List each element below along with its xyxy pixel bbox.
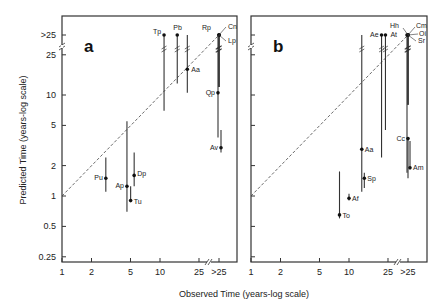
x-tick-label: 10 [344,267,354,277]
data-point [408,166,412,170]
point-label: Am [413,164,424,171]
label-leader [408,35,416,41]
label-leader [408,27,415,35]
x-tick-label: 25 [194,267,204,277]
data-point [186,67,190,71]
data-point [162,33,166,37]
panel-a: 0.250.51251025>251251025>25aPuApDpTuTpPb… [38,16,237,277]
x-tick-label: 2 [89,267,94,277]
point-label: Cm [416,22,427,29]
label-leader [403,28,408,35]
label-leader [219,27,226,35]
data-point [384,33,388,37]
point-label: Ap [115,182,124,190]
panel-letter: a [84,37,94,56]
point-label: Qp [206,89,215,97]
x-axis-title: Observed Time (years-log scale) [179,289,309,299]
x-tick-label: 5 [128,267,133,277]
x-tick-label: 10 [155,267,165,277]
point-label: Tp [153,28,161,36]
y-tick-label: 1 [51,191,56,201]
x-tick-label: 2 [278,267,283,277]
point-label: Cn [228,23,237,30]
point-label: Sp [367,175,376,183]
y-tick-label: 0.5 [43,221,56,231]
point-label: Av [210,144,219,151]
x-tick-label: >25 [400,267,415,277]
y-tick-label: 5 [51,120,56,130]
y-break-gap [250,45,252,48]
y-axis-title: Predicted Time (years-log scale) [18,75,28,204]
identity-line [251,35,408,196]
y-tick-label: 2 [51,161,56,171]
y-tick-label: 10 [46,90,56,100]
label-leader [219,35,226,41]
x-tick-label: 5 [317,267,322,277]
x-tick-label: 1 [248,267,253,277]
point-label: To [343,212,351,219]
data-point [129,199,133,203]
point-label: Dp [137,170,146,178]
y-tick-label: >25 [41,30,56,40]
y-tick-label: 25 [46,50,56,60]
point-label: At [390,31,397,38]
point-label: Sr [418,37,426,44]
data-point [406,137,410,141]
data-point [125,184,129,188]
point-label: Af [352,195,359,202]
point-label: Ae [370,31,379,38]
figure: 0.250.51251025>251251025>25aPuApDpTuTpPb… [0,0,448,308]
data-point [175,33,179,37]
panel-b: 1251025>25bToAfAaSpAeAtHhCmOiSrCcAm [248,16,427,277]
data-point [347,196,351,200]
point-label: Aa [365,146,374,153]
point-label: Oi [419,30,426,37]
x-tick-label: 25 [383,267,393,277]
y-break-gap [61,45,63,48]
x-tick-label: 1 [59,267,64,277]
point-label: Aa [191,66,200,73]
data-point [363,176,367,180]
data-point [360,147,364,151]
point-label: Rp [202,24,211,32]
data-point [132,174,136,178]
panel-letter: b [273,37,283,56]
y-tick-label: 0.25 [38,252,56,262]
point-label: Lp [228,37,236,45]
point-label: Tu [134,198,142,205]
data-point [104,176,108,180]
point-label: Hh [390,22,399,29]
data-point [380,33,384,37]
x-tick-label: >25 [211,267,226,277]
point-label: Pb [173,24,182,31]
point-label: Cc [396,135,405,142]
data-point [216,91,220,95]
data-point [338,213,342,217]
point-label: Pu [94,174,103,181]
data-point [219,146,223,150]
